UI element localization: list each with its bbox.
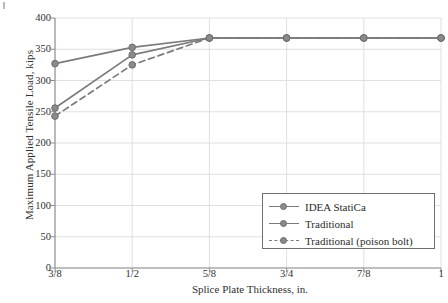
y-axis-tick-label: 300 <box>17 76 51 86</box>
data-point-marker <box>283 35 290 42</box>
legend-label: IDEA StatiCa <box>305 201 366 213</box>
x-axis-tick-label: 5/8 <box>184 268 234 279</box>
series-line-0 <box>55 38 441 64</box>
data-point-marker <box>129 52 136 59</box>
x-axis-tick-label: 3/4 <box>262 268 312 279</box>
legend-item-traditional-poison-bolt: Traditional (poison bolt) <box>269 232 428 249</box>
y-axis-tick-label: 350 <box>17 44 51 54</box>
legend-label: Traditional (poison bolt) <box>305 235 413 247</box>
x-axis-tick-label: 1/2 <box>107 268 157 279</box>
legend-label: Traditional <box>305 218 354 230</box>
data-point-marker <box>438 35 445 42</box>
data-point-marker <box>129 44 136 51</box>
x-axis-tick-label: 7/8 <box>339 268 389 279</box>
x-axis-tick-labels: 3/81/25/83/47/81 <box>0 268 448 284</box>
data-point-marker <box>52 60 59 67</box>
y-axis-tick-labels: 050100150200250300350400 <box>13 0 51 303</box>
chart-legend: IDEA StatiCa Traditional Traditional (po… <box>262 193 435 249</box>
y-axis-tick-label: 250 <box>17 107 51 117</box>
y-axis-tick-label: 100 <box>17 201 51 211</box>
data-point-marker <box>361 35 368 42</box>
x-axis-label: Splice Plate Thickness, in. <box>55 283 445 295</box>
legend-dashed-line-sample-icon <box>269 235 299 247</box>
legend-line-sample-icon <box>269 218 299 230</box>
data-point-marker <box>129 62 136 69</box>
data-point-marker <box>52 113 59 120</box>
series-line-2 <box>55 38 441 116</box>
series-line-1 <box>55 38 441 108</box>
x-axis-tick-label: 1 <box>416 268 448 279</box>
data-point-marker <box>52 105 59 112</box>
y-axis-tick-label: 50 <box>17 232 51 242</box>
chart-plot-area <box>0 0 448 303</box>
data-point-marker <box>206 35 213 42</box>
x-axis-tick-label: 3/8 <box>30 268 80 279</box>
legend-item-traditional: Traditional <box>269 215 428 232</box>
y-axis-tick-label: 200 <box>17 138 51 148</box>
legend-line-sample-icon <box>269 201 299 213</box>
legend-item-idea-statica: IDEA StatiCa <box>269 198 428 215</box>
y-axis-tick-label: 150 <box>17 169 51 179</box>
chart-figure: Maximum Applied Tensile Load, kips Splic… <box>0 0 448 303</box>
y-axis-tick-label: 400 <box>17 13 51 23</box>
